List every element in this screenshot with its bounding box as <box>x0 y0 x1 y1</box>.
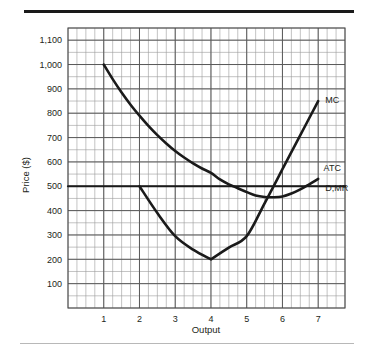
x-axis-title: Output <box>192 324 221 335</box>
y-tick-label: 200 <box>47 255 62 265</box>
plot-border <box>68 28 345 308</box>
y-tick-label: 1,100 <box>39 35 62 45</box>
x-tick-label: 4 <box>208 314 213 324</box>
x-tick-label: 7 <box>316 314 321 324</box>
plot-frame <box>68 28 345 308</box>
major-gridlines <box>68 28 345 308</box>
series-label-dmr: D,MR <box>325 183 348 193</box>
y-axis-title: Price ($) <box>20 157 31 193</box>
x-tick-label: 5 <box>244 314 249 324</box>
minor-gridlines <box>68 28 345 308</box>
x-tick-label: 2 <box>137 314 142 324</box>
x-tick-label: 1 <box>101 314 106 324</box>
series-label-atc: ATC <box>324 163 342 173</box>
x-tick-label: 6 <box>280 314 285 324</box>
chart-figure: 1002003004005006007008009001,0001,100 12… <box>0 0 375 358</box>
x-tick-label: 3 <box>173 314 178 324</box>
y-tick-label: 700 <box>47 133 62 143</box>
y-tick-label: 400 <box>47 206 62 216</box>
y-axis-ticks: 1002003004005006007008009001,0001,100 <box>39 35 62 288</box>
y-tick-label: 900 <box>47 84 62 94</box>
y-tick-label: 600 <box>47 157 62 167</box>
x-axis-ticks: 1234567 <box>101 314 320 324</box>
price-output-plot: 1002003004005006007008009001,0001,100 12… <box>0 0 375 358</box>
y-tick-label: 300 <box>47 230 62 240</box>
y-tick-label: 500 <box>47 181 62 191</box>
y-tick-label: 800 <box>47 108 62 118</box>
y-tick-label: 1,000 <box>39 60 62 70</box>
series-label-mc: MC <box>325 95 339 105</box>
y-tick-label: 100 <box>47 279 62 289</box>
